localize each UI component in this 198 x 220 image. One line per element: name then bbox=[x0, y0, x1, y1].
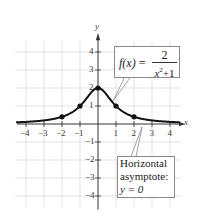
y-tick-label: 4 bbox=[89, 47, 94, 56]
y-tick-label: −1 bbox=[85, 137, 95, 146]
x-tick-label: 1 bbox=[114, 129, 119, 138]
x-tick-label: −4 bbox=[20, 129, 30, 138]
callout-pointers bbox=[113, 77, 142, 157]
x-tick-label: −2 bbox=[56, 129, 66, 138]
asymptote-callout: Horizontal asymptote: y = 0 bbox=[117, 156, 175, 198]
y-axis-label: y bbox=[95, 22, 99, 31]
y-tick-label: 2 bbox=[89, 83, 94, 92]
asymptote-equation: y = 0 bbox=[120, 183, 174, 196]
x-tick-label: −1 bbox=[74, 129, 84, 138]
function-lhs: f(x) = bbox=[119, 56, 145, 71]
y-tick-label: −2 bbox=[85, 155, 95, 164]
x-tick-label: 3 bbox=[150, 129, 155, 138]
x-tick-label: 4 bbox=[168, 129, 173, 138]
asymptote-line-2: asymptote: bbox=[120, 170, 174, 183]
y-tick-label: −4 bbox=[85, 191, 95, 200]
fraction-numerator: 2 bbox=[152, 49, 177, 61]
x-tick-label: −3 bbox=[38, 129, 48, 138]
y-tick-label: −3 bbox=[85, 173, 95, 182]
graph-figure: −4−3−2−112341234−1−2−3−4 y x f(x) = 2 x2… bbox=[0, 0, 198, 220]
y-tick-label: 1 bbox=[89, 101, 94, 110]
asymptote-line-1: Horizontal bbox=[120, 157, 174, 170]
fraction-bar bbox=[152, 62, 177, 63]
function-fraction: 2 x2+1 bbox=[152, 49, 177, 79]
x-tick-label: 2 bbox=[132, 129, 137, 138]
fraction-denominator: x2+1 bbox=[152, 64, 177, 79]
function-callout: f(x) = 2 x2+1 bbox=[114, 46, 180, 78]
x-axis-label: x bbox=[184, 118, 188, 127]
y-tick-label: 3 bbox=[89, 65, 94, 74]
